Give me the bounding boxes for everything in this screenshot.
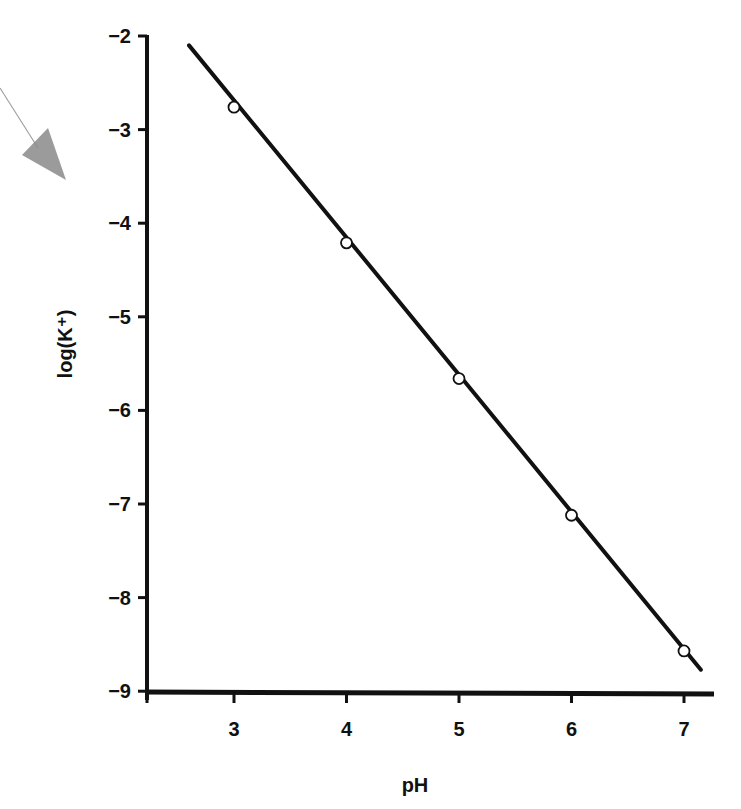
x-tick-label: 3 (228, 718, 239, 740)
y-tick-label: −7 (108, 493, 131, 515)
data-point (454, 373, 465, 384)
x-tick-label: 7 (678, 718, 689, 740)
x-ticks: 34567 (147, 692, 690, 740)
data-point (679, 645, 690, 656)
annotation-arrow-icon (0, 88, 66, 180)
y-tick-label: −2 (108, 25, 131, 47)
y-ticks: −2−3−4−5−6−7−8−9 (108, 25, 147, 702)
data-point (229, 102, 240, 113)
x-tick-label: 6 (566, 718, 577, 740)
data-point (566, 510, 577, 521)
y-tick-label: −6 (108, 399, 131, 421)
y-tick-label: −3 (108, 119, 131, 141)
y-tick-label: −8 (108, 587, 131, 609)
x-axis-label: pH (402, 774, 429, 796)
y-tick-label: −4 (108, 212, 132, 234)
x-tick-label: 4 (341, 718, 353, 740)
data-point (341, 237, 352, 248)
x-axis (145, 692, 714, 694)
chart: −2−3−4−5−6−7−8−9 34567 pH log(K⁺) (0, 0, 741, 809)
y-axis-label: log(K⁺) (54, 310, 76, 379)
y-tick-label: −5 (108, 306, 131, 328)
y-tick-label: −9 (108, 680, 131, 702)
fit-line (189, 45, 701, 669)
x-tick-label: 5 (453, 718, 464, 740)
